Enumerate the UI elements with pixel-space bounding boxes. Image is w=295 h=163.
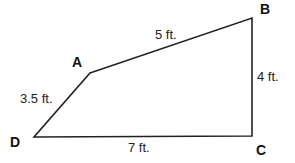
vertex-label-d: D xyxy=(10,134,20,150)
edge-label-da: 3.5 ft. xyxy=(20,91,53,106)
quadrilateral-shape xyxy=(34,18,252,137)
quadrilateral-diagram: A B C D 5 ft. 4 ft. 7 ft. 3.5 ft. xyxy=(0,0,295,163)
edge-label-bc: 4 ft. xyxy=(257,69,279,84)
edge-label-ab: 5 ft. xyxy=(155,27,177,42)
vertex-label-b: B xyxy=(260,1,270,17)
vertex-label-c: C xyxy=(256,142,266,158)
edge-label-cd: 7 ft. xyxy=(128,140,150,155)
vertex-label-a: A xyxy=(72,54,82,70)
